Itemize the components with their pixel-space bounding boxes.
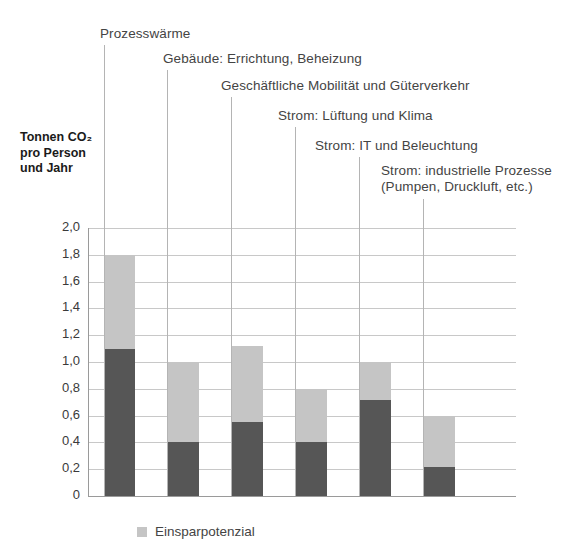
- einsparpotenzial-swatch: [137, 527, 147, 537]
- bar-column: [232, 346, 263, 496]
- gridline: [88, 255, 516, 256]
- callout-label-2: Gebäude: Errichtung, Beheizung: [163, 51, 362, 67]
- bar-column: [104, 255, 135, 496]
- bar-segment-verbleibend: [360, 400, 391, 496]
- callout-leader-line-3: [231, 97, 232, 496]
- bar-column: [296, 389, 327, 496]
- y-axis-tick-label: 0: [34, 487, 80, 502]
- bar-segment-verbleibend: [424, 467, 455, 496]
- bar-segment-verbleibend: [232, 422, 263, 496]
- x-axis-line: [88, 496, 516, 497]
- bar-segment-einsparpotenzial: [104, 255, 135, 349]
- callout-label-6: Strom: industrielle Prozesse (Pumpen, Dr…: [381, 163, 552, 195]
- callout-label-3: Geschäftliche Mobilität und Güterverkehr: [221, 78, 470, 94]
- bar-column: [360, 362, 391, 496]
- callout-label-4: Strom: Lüftung und Klima: [278, 108, 433, 124]
- gridline: [88, 335, 516, 336]
- chart-legend: Einsparpotenzial: [137, 524, 255, 539]
- gridline: [88, 362, 516, 363]
- callout-leader-line-1: [104, 45, 105, 496]
- gridline: [88, 308, 516, 309]
- callout-leader-line-6: [423, 199, 424, 496]
- bar-segment-verbleibend: [104, 349, 135, 496]
- y-axis-tick-label: 1,4: [34, 299, 80, 314]
- bar-column: [424, 416, 455, 496]
- callout-leader-line-5: [359, 157, 360, 496]
- callout-label-1: Prozesswärme: [100, 26, 190, 42]
- y-axis-tick-label: 0,6: [34, 407, 80, 422]
- y-axis-line: [88, 228, 89, 497]
- y-axis-tick-label: 2,0: [34, 219, 80, 234]
- gridline: [88, 282, 516, 283]
- bar-segment-einsparpotenzial: [168, 362, 199, 442]
- bar-column: [168, 362, 199, 496]
- y-axis-tick-label: 1,6: [34, 273, 80, 288]
- y-axis-tick-label: 1,0: [34, 353, 80, 368]
- y-axis-tick-label: 1,2: [34, 326, 80, 341]
- legend-label-einsparpotenzial: Einsparpotenzial: [155, 524, 255, 539]
- chart-plot-area: 00,20,40,60,81,01,21,41,61,82,0Prozesswä…: [0, 0, 574, 560]
- bar-segment-verbleibend: [168, 442, 199, 496]
- y-axis-tick-label: 0,2: [34, 460, 80, 475]
- gridline: [88, 228, 516, 229]
- callout-leader-line-4: [295, 127, 296, 496]
- bar-segment-einsparpotenzial: [360, 362, 391, 400]
- bar-segment-einsparpotenzial: [296, 389, 327, 443]
- bar-segment-verbleibend: [296, 442, 327, 496]
- bar-segment-einsparpotenzial: [232, 346, 263, 422]
- y-axis-tick-label: 1,8: [34, 246, 80, 261]
- callout-leader-line-2: [167, 70, 168, 496]
- callout-label-5: Strom: IT und Beleuchtung: [315, 138, 478, 154]
- y-axis-tick-label: 0,4: [34, 433, 80, 448]
- bar-segment-einsparpotenzial: [424, 416, 455, 467]
- y-axis-tick-label: 0,8: [34, 380, 80, 395]
